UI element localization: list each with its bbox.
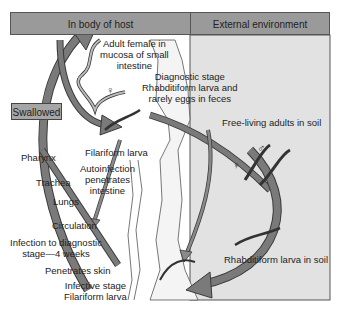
intestine-outline [134,160,142,300]
autoinfection-label: Autoinfection penetrates intestine [80,163,135,196]
male-symbol-soil: ♂ [257,143,265,154]
host-header: In body of host [10,12,191,35]
adult-female-label: Adult female in mucosa of small intestin… [100,38,169,71]
female-symbol-soil: ♀ [232,160,240,171]
swallowed-box: Swallowed [11,103,62,120]
rhabditiform-soil-label: Rhabditiform larva in soil [224,254,328,265]
penetrates-skin-label: Penetrates skin [45,265,110,276]
strongyloides-life-cycle-diagram: In body of host External environment Adu… [0,0,342,311]
circulation-label: Circulation [52,220,97,231]
infection-time-label: Infection to diagnostic stage—4 weeks [10,237,102,259]
infective-stage-label: Infective stage Filariform larva [64,280,127,302]
free-living-label: Free-living adults in soil [222,117,321,128]
trachea-label: Trachea [36,177,71,188]
diagnostic-stage-label: Diagnostic stage Rhabditiform larva and … [142,71,238,104]
filariform-larva-label: Filariform larva [85,147,148,158]
external-header: External environment [190,12,330,35]
female-symbol: ♀ [106,85,114,96]
pharynx-label: Pharynx [21,152,56,163]
lungs-label: Lungs [53,196,79,207]
